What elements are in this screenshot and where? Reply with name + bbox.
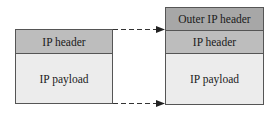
connector-arrows bbox=[0, 0, 280, 116]
